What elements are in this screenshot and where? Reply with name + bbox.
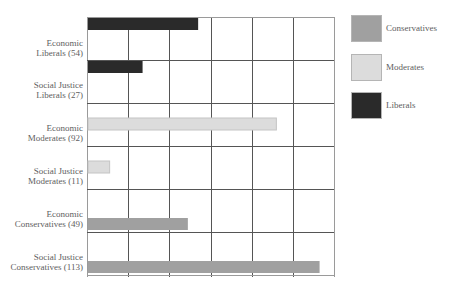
- category-label: EconomicLiberals (54): [0, 38, 83, 58]
- category-label-line1: Economic: [0, 38, 83, 48]
- legend-swatch: [351, 92, 382, 119]
- category-label-line1: Social Justice: [0, 80, 83, 90]
- legend-label: Liberals: [386, 100, 416, 110]
- category-label: EconomicConservatives (49): [0, 209, 83, 229]
- bar-moderates: [88, 161, 110, 173]
- category-label-line1: Social Justice: [0, 166, 83, 176]
- bar-chart: EconomicLiberals (54)Social JusticeLiber…: [0, 0, 452, 288]
- category-label-line1: Social Justice: [0, 252, 83, 262]
- bar-liberals: [88, 18, 198, 30]
- bar-liberals: [88, 61, 143, 73]
- category-label-line2: Conservatives (113): [0, 262, 83, 272]
- legend-swatch: [351, 54, 382, 81]
- category-label-line2: Liberals (54): [0, 48, 83, 58]
- legend-swatch: [351, 15, 382, 42]
- legend-label: Moderates: [386, 62, 424, 72]
- category-label-line2: Liberals (27): [0, 90, 83, 100]
- category-label-line2: Moderates (92): [0, 133, 83, 143]
- category-label-line2: Moderates (11): [0, 176, 83, 186]
- category-label-line1: Economic: [0, 123, 83, 133]
- category-label-line2: Conservatives (49): [0, 219, 83, 229]
- legend-label: Conservatives: [386, 23, 437, 33]
- category-label: Social JusticeModerates (11): [0, 166, 83, 186]
- bar-conservatives: [88, 218, 188, 230]
- category-label: Social JusticeLiberals (27): [0, 80, 83, 100]
- bar-conservatives: [88, 261, 320, 273]
- category-label: EconomicModerates (92): [0, 123, 83, 143]
- category-label: Social JusticeConservatives (113): [0, 252, 83, 272]
- bar-moderates: [88, 118, 276, 130]
- category-label-line1: Economic: [0, 209, 83, 219]
